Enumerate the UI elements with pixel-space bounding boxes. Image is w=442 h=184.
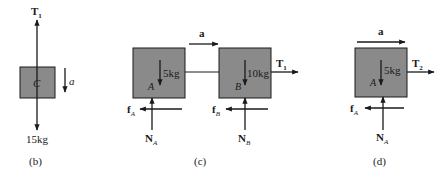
panel-d: a 5kg A T2 fA NA (d)	[350, 25, 434, 168]
caption-b: (b)	[29, 155, 42, 168]
caption-d: (d)	[373, 155, 386, 168]
mass-label: 15kg	[26, 133, 49, 145]
friction-label-a: fA	[127, 103, 136, 118]
normal-label-a: NA	[145, 132, 158, 147]
normal-label: NA	[376, 131, 389, 146]
normal-label-b: NB	[238, 132, 251, 147]
tension-label: T2	[412, 57, 423, 72]
accel-label: a	[199, 27, 205, 39]
mass-a: 5kg	[163, 67, 180, 79]
tension-label: T1	[31, 5, 42, 20]
accel-label: a	[378, 25, 384, 37]
block-c-label: C	[33, 77, 41, 89]
panel-c: a 5kg A 10kg B T1 fA NA fB NB (c)	[127, 27, 298, 168]
caption-c: (c)	[194, 155, 207, 168]
block-a-label: A	[147, 81, 155, 92]
free-body-diagrams: T1 C a 15kg (b) a 5kg A 10kg B T1 fA NA …	[0, 0, 442, 184]
mass-b: 10kg	[247, 67, 270, 79]
friction-label: fA	[350, 102, 359, 117]
block-a-label: A	[369, 77, 377, 88]
panel-b: T1 C a 15kg (b)	[20, 5, 75, 168]
mass-a: 5kg	[384, 64, 401, 76]
accel-label: a	[69, 75, 75, 87]
friction-label-b: fB	[212, 103, 221, 118]
tension-label: T1	[276, 57, 287, 72]
block-b-label: B	[235, 81, 241, 92]
